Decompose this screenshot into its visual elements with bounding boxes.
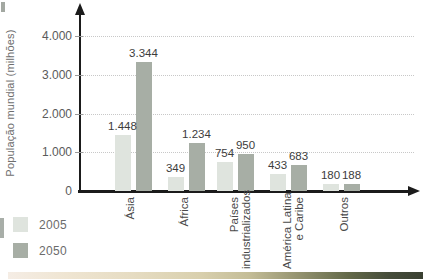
legend-label: 2050 — [39, 244, 67, 258]
bar-2005 — [323, 184, 339, 191]
bar-2005 — [217, 162, 233, 191]
legend-item: 2050 — [13, 243, 67, 258]
category-label: Ásia — [124, 197, 136, 269]
y-axis-tick-label: 0 — [28, 184, 72, 198]
legend-swatch — [13, 217, 28, 232]
y-axis-title: População mundial (milhões) — [4, 18, 18, 188]
bar-2005 — [115, 135, 131, 191]
bar-2050 — [344, 184, 360, 191]
y-axis-arrow-icon — [75, 3, 85, 15]
population-bar-chart: População mundial (milhões) 01.0002.0003… — [0, 0, 423, 279]
y-axis-line — [79, 14, 81, 193]
page-edge-artifact-top — [1, 2, 5, 12]
photo-edge-strip — [8, 272, 423, 279]
legend-label: 2005 — [39, 218, 67, 232]
gridline — [81, 75, 414, 76]
y-axis-tickmark — [75, 152, 83, 153]
y-axis-tick-label: 3.000 — [28, 68, 72, 82]
bar-value-label: 950 — [224, 139, 268, 151]
bar-2050 — [238, 154, 254, 191]
y-axis-tick-label: 1.000 — [28, 145, 72, 159]
bar-value-label: 683 — [277, 150, 321, 162]
category-label: Outros — [338, 197, 350, 269]
y-axis-tickmark — [75, 36, 83, 37]
category-label: África — [178, 197, 190, 269]
category-label: América Latina e Caribe — [281, 197, 305, 269]
bar-value-label: 349 — [154, 162, 198, 174]
gridline — [81, 152, 414, 153]
bar-2005 — [270, 174, 286, 191]
bar-value-label: 1.234 — [175, 128, 219, 140]
page-edge-artifact-left — [0, 218, 4, 238]
bar-value-label: 1.448 — [101, 120, 145, 132]
legend: 20052050 — [13, 217, 67, 269]
gridline — [81, 36, 414, 37]
bar-value-label: 3.344 — [122, 47, 166, 59]
bar-value-label: 188 — [330, 169, 374, 181]
y-axis-tickmark — [75, 114, 83, 115]
category-label: Países industrializados — [228, 197, 252, 269]
legend-swatch — [13, 243, 28, 258]
y-axis-tick-label: 2.000 — [28, 107, 72, 121]
y-axis-tickmark — [75, 75, 83, 76]
x-axis-arrow-icon — [408, 186, 420, 196]
legend-item: 2005 — [13, 217, 67, 232]
bar-2005 — [168, 177, 184, 191]
gridline — [81, 114, 414, 115]
y-axis-tick-label: 4.000 — [28, 29, 72, 43]
